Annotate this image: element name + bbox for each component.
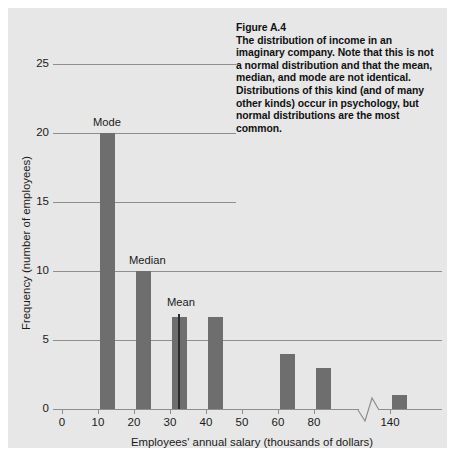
xtick-mark-80 (314, 409, 315, 414)
y-axis-label: Frequency (number of employees) (20, 156, 32, 330)
xtick-mark-40 (206, 409, 207, 414)
xtick-mark-20 (134, 409, 135, 414)
bar-10 (100, 133, 115, 409)
bar-chart-plot-area: 25 20 15 10 5 0 Frequency (number of emp… (8, 8, 447, 448)
x-axis-label: Employees' annual salary (thousands of d… (62, 436, 442, 448)
xtick-mark-140 (390, 409, 391, 414)
ytick-mark-15 (53, 202, 62, 203)
ytick-mark-5 (53, 340, 62, 341)
gridline-20 (62, 133, 236, 134)
xtick-label-60: 60 (263, 416, 293, 428)
ytick-label-5: 5 (23, 333, 49, 345)
xtick-label-0: 0 (47, 416, 77, 428)
mean-indicator-line (178, 314, 180, 409)
ytick-label-25: 25 (23, 57, 49, 69)
ytick-label-0: 0 (23, 402, 49, 414)
xtick-label-20: 20 (119, 416, 149, 428)
xtick-label-80: 80 (299, 416, 329, 428)
bar-140 (392, 395, 407, 409)
bar-60 (280, 354, 295, 409)
xtick-label-50: 50 (227, 416, 257, 428)
annotation-mean: Mean (167, 296, 195, 308)
xtick-mark-60 (278, 409, 279, 414)
figure-panel: Figure A.4 The distribution of income in… (8, 8, 447, 448)
bar-20 (136, 271, 151, 409)
bar-80 (316, 368, 331, 409)
xtick-mark-10 (98, 409, 99, 414)
gridline-25 (62, 64, 236, 65)
gridline-15 (62, 202, 236, 203)
bar-40 (208, 317, 223, 409)
ytick-label-20: 20 (23, 126, 49, 138)
xtick-label-30: 30 (155, 416, 185, 428)
gridline-10 (62, 271, 442, 272)
annotation-mode: Mode (93, 116, 121, 128)
ytick-mark-25 (53, 64, 62, 65)
annotation-median: Median (129, 254, 166, 266)
xtick-label-40: 40 (191, 416, 221, 428)
xtick-mark-30 (170, 409, 171, 414)
ytick-mark-20 (53, 133, 62, 134)
xtick-label-10: 10 (83, 416, 113, 428)
xtick-mark-50 (242, 409, 243, 414)
x-axis-line-right (379, 409, 442, 410)
ytick-mark-10 (53, 271, 62, 272)
gridline-5 (62, 340, 442, 341)
xtick-label-140: 140 (375, 416, 405, 428)
xtick-mark-0 (62, 409, 63, 414)
